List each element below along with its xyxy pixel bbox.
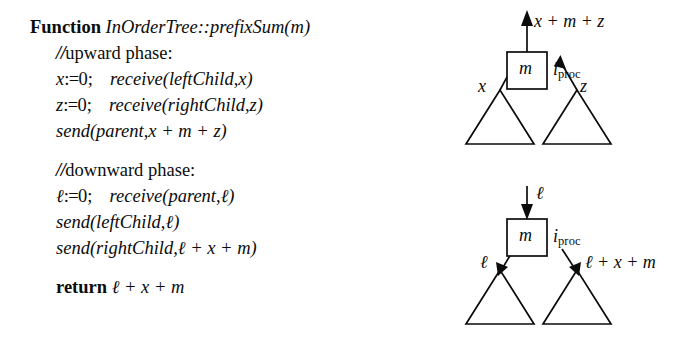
expr-x-m-z: x + m + z (148, 121, 220, 141)
node-value-downward: m (519, 225, 532, 246)
keyword-function: Function (30, 17, 101, 37)
code-blank-line (30, 144, 430, 157)
left-arrow-label-upward: x (478, 76, 486, 97)
var-ell: ℓ (56, 186, 64, 206)
close-paren: ) (228, 186, 234, 206)
figure-canvas: Function InOrderTree::prefixSum(m) //upw… (0, 0, 679, 340)
code-line-return: return ℓ + x + m (30, 274, 430, 300)
assign-op: := (64, 69, 78, 89)
call-send: send (56, 238, 90, 258)
close-paren: ) (221, 121, 227, 141)
top-arrow-label-downward: ℓ (536, 183, 544, 204)
close-paren: ) (246, 69, 252, 89)
call-receive: receive (110, 69, 163, 89)
code-line-function-header: Function InOrderTree::prefixSum(m) (30, 14, 430, 40)
function-param: m (291, 17, 304, 37)
comment-slashes: // (56, 160, 65, 180)
right-arrow-label-downward: ℓ + x + m (585, 252, 656, 273)
value-zero: 0 (79, 69, 88, 89)
node-proc-label-upward: iproc (553, 59, 581, 82)
code-line-send-right: send(rightChild,ℓ + x + m) (30, 235, 430, 261)
semicolon: ; (88, 69, 93, 89)
code-line-send-parent: send(parent,x + m + z) (30, 118, 430, 144)
comment-text-upward: upward phase: (65, 43, 172, 63)
arg-right-child: rightChild (168, 95, 245, 115)
parent-arrowhead-down-icon (521, 204, 533, 220)
pseudocode-block: Function InOrderTree::prefixSum(m) //upw… (30, 14, 430, 300)
right-arrow-label-upward: z (580, 76, 587, 97)
right-subtree-triangle-icon (543, 90, 611, 144)
diagram-upward-phase: m iproc x + m + z x z (452, 2, 668, 167)
arg-right-child: rightChild (96, 238, 173, 258)
call-receive: receive (109, 95, 162, 115)
code-line-send-left: send(leftChild,ℓ) (30, 209, 430, 235)
close-paren: ) (257, 95, 263, 115)
arg-z: z (250, 95, 257, 115)
node-proc-label-downward: iproc (553, 226, 581, 249)
top-arrow-label-upward: x + m + z (534, 11, 604, 32)
assign-op: := (63, 95, 77, 115)
var-x: x (56, 69, 64, 89)
comment-text-downward: downward phase: (65, 160, 195, 180)
assign-op: := (64, 186, 78, 206)
call-send: send (56, 121, 90, 141)
call-receive: receive (109, 186, 162, 206)
close-paren: ) (251, 238, 257, 258)
function-name: InOrderTree::prefixSum (106, 17, 285, 37)
value-zero: 0 (78, 95, 87, 115)
arg-parent: parent (168, 186, 216, 206)
code-blank-line (30, 261, 430, 274)
expr-ell-x-m: ℓ + x + m (178, 238, 251, 258)
code-line-upward-comment: //upward phase: (30, 40, 430, 66)
arg-parent: parent (96, 121, 144, 141)
comment-slashes: // (56, 43, 65, 63)
diagram-downward-phase: m iproc ℓ ℓ ℓ + x + m (452, 172, 668, 337)
code-line-x-init: x:=0;receive(leftChild,x) (30, 66, 430, 92)
code-line-downward-comment: //downward phase: (30, 157, 430, 183)
semicolon: ; (87, 95, 92, 115)
right-subtree-triangle-icon (543, 270, 611, 324)
value-zero: 0 (78, 186, 87, 206)
code-line-z-init: z:=0;receive(rightChild,z) (30, 92, 430, 118)
call-send: send (56, 212, 90, 232)
code-line-l-init: ℓ:=0;receive(parent,ℓ) (30, 183, 430, 209)
keyword-return: return (56, 277, 107, 297)
expr-return: ℓ + x + m (112, 277, 185, 297)
close-paren: ) (304, 17, 310, 37)
arg-left-child: leftChild (96, 212, 161, 232)
close-paren: ) (173, 212, 179, 232)
semicolon: ; (87, 186, 92, 206)
left-subtree-triangle-icon (466, 90, 534, 144)
left-arrow-label-downward: ℓ (480, 252, 488, 273)
parent-arrowhead-up-icon (521, 10, 533, 26)
left-subtree-triangle-icon (466, 270, 534, 324)
node-value-upward: m (519, 58, 532, 79)
arg-left-child: leftChild (169, 69, 234, 89)
